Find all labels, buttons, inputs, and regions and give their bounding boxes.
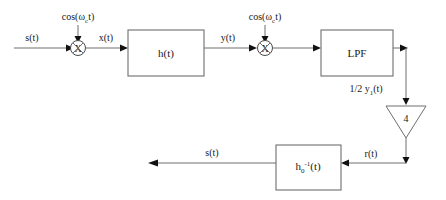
arrowhead-h-in <box>120 45 128 52</box>
arrowhead-lpf-out <box>400 45 408 52</box>
carrier-1-suffix: t) <box>88 11 94 23</box>
block-h-label: h(t) <box>158 47 174 60</box>
arrowhead-output <box>148 160 158 167</box>
arrowhead-mixer2-in <box>249 45 257 52</box>
label-signal-y: y(t) <box>221 32 235 44</box>
carrier-2-prefix: cos( <box>249 11 266 23</box>
label-half-y1-tail: (t) <box>373 83 382 95</box>
carrier-1-prefix: cos( <box>62 11 79 23</box>
arrowhead-gain-in <box>403 98 410 105</box>
block-hinv <box>276 145 341 190</box>
label-signal-x: x(t) <box>99 32 113 44</box>
label-signal-r: r(t) <box>365 148 378 160</box>
block-hinv-label-tail: (t) <box>310 160 321 173</box>
block-hinv-label-sub: 0 <box>301 167 305 175</box>
label-half-y1-base: 1/2 y <box>349 83 369 94</box>
carrier-1-label: cos(ωct) <box>62 11 94 25</box>
label-signal-input: s(t) <box>25 32 38 44</box>
label-signal-output: s(t) <box>205 147 218 159</box>
carrier-2-suffix: t) <box>275 11 281 23</box>
diagram-canvas: X h(t) X LPF 4 <box>0 0 446 200</box>
block-lpf-label: LPF <box>348 47 367 59</box>
carrier-2-label: cos(ωct) <box>249 11 281 25</box>
arrowhead-lpf-in <box>313 45 321 52</box>
block-gain-label: 4 <box>404 113 409 124</box>
label-signal-half-y1: 1/2 y1(t) <box>349 83 382 97</box>
arrowhead-hinv-in <box>341 160 349 167</box>
block-diagram: X h(t) X LPF 4 <box>0 0 446 200</box>
